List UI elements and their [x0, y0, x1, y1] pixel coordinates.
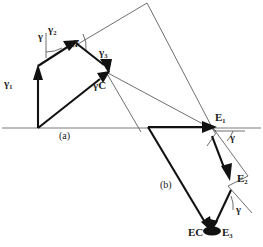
label-angle-a-left: γ [38, 32, 43, 43]
vector-e2-arrowhead [221, 163, 232, 181]
vector-gamma1-arrowhead [33, 64, 43, 80]
label-panel-a: (a) [59, 131, 70, 141]
vector-e3-shaft [215, 190, 231, 224]
vector-diagram-figure: γ₁ γ₂ γ₃ γC γ γ (a) E₁ E₂ E₃ EC γ γ (b) [0, 0, 263, 247]
label-panel-b: (b) [160, 180, 172, 190]
label-gamma-c: γC [93, 80, 106, 91]
label-e-1: E₁ [215, 112, 226, 123]
label-e-3: E₃ [222, 227, 233, 238]
construction-line-gammac-e1 [106, 72, 216, 131]
label-gamma-2: γ₂ [48, 24, 56, 35]
label-angle-b-lower: γ [236, 205, 241, 216]
angle-arc-b-lower [231, 196, 233, 210]
label-gamma-1: γ₁ [4, 78, 12, 89]
label-angle-b-upper: γ [230, 133, 235, 144]
label-gamma-3: γ₃ [99, 47, 107, 58]
vector-convergence-blob-b [203, 227, 221, 236]
label-e-c: EC [188, 227, 203, 238]
vector-ec-shaft [148, 127, 206, 224]
construction-line-apex-left [73, 3, 147, 47]
vector-gamma2-shaft [38, 46, 69, 66]
construction-line-apex-right [147, 3, 215, 133]
label-e-2: E₂ [237, 173, 248, 184]
vector-gammac-shaft [38, 79, 100, 128]
label-angle-a-mid: γ [74, 37, 79, 48]
